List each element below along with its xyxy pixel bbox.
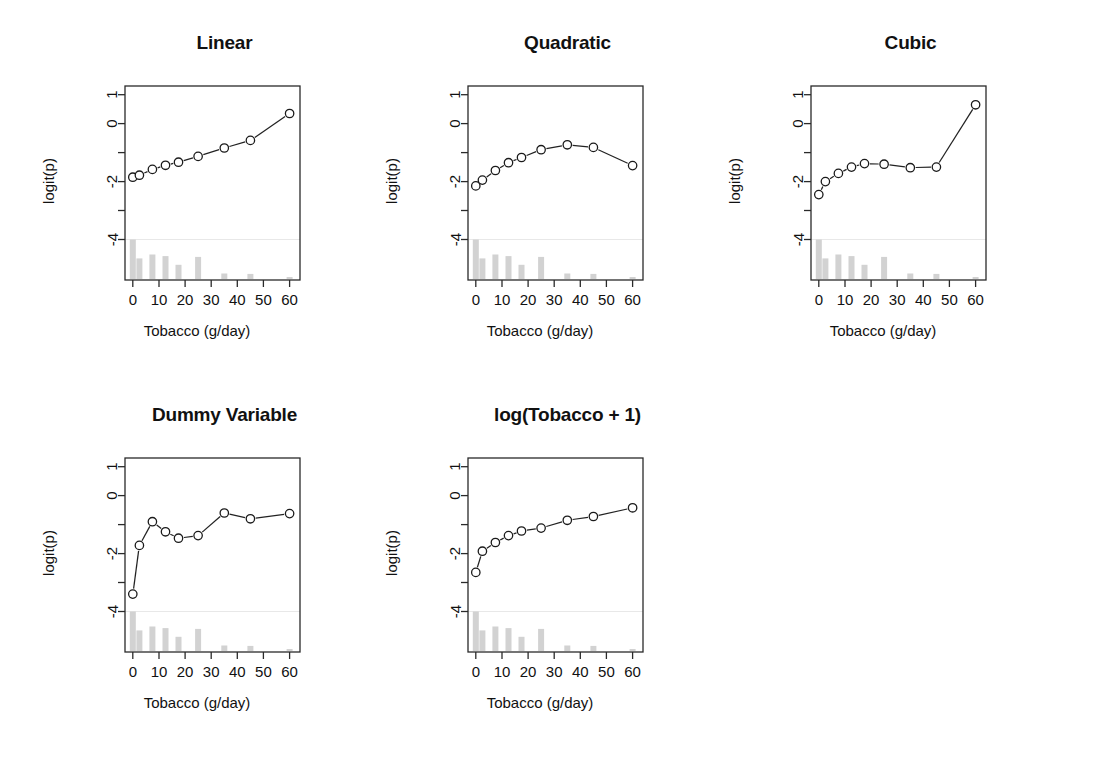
rug-bar bbox=[287, 277, 293, 279]
y-tick-label: -4 bbox=[790, 233, 807, 246]
data-point bbox=[821, 177, 829, 185]
data-point bbox=[971, 101, 979, 109]
rug-bar bbox=[590, 646, 596, 651]
data-point bbox=[628, 504, 636, 512]
data-point bbox=[174, 158, 182, 166]
rug-bar bbox=[479, 630, 485, 651]
x-tick-label: 20 bbox=[520, 663, 537, 680]
x-tick-label: 60 bbox=[624, 663, 641, 680]
axes-frame bbox=[811, 86, 986, 280]
rug-bar bbox=[130, 240, 136, 280]
rug-bar bbox=[538, 257, 544, 279]
x-tick-label: 50 bbox=[598, 663, 615, 680]
panel-title: Quadratic bbox=[385, 32, 750, 54]
panel-title: log(Tobacco + 1) bbox=[385, 404, 750, 426]
x-tick-label: 40 bbox=[572, 663, 589, 680]
data-point bbox=[847, 163, 855, 171]
rug-bar bbox=[564, 274, 570, 280]
rug-bar bbox=[822, 258, 828, 279]
axes-frame bbox=[125, 458, 300, 652]
x-tick-label: 50 bbox=[255, 663, 272, 680]
rug-bar bbox=[933, 274, 939, 279]
data-point bbox=[537, 524, 545, 532]
data-point bbox=[906, 164, 914, 172]
x-tick-label: 20 bbox=[520, 291, 537, 308]
series-markers bbox=[472, 504, 637, 577]
y-axis-label: logit(p) bbox=[40, 82, 56, 280]
y-tick-label: 0 bbox=[104, 491, 121, 499]
x-tick-label: 20 bbox=[863, 291, 880, 308]
data-point bbox=[135, 541, 143, 549]
y-tick-label: 0 bbox=[447, 491, 464, 499]
y-tick-label: -2 bbox=[104, 175, 121, 188]
data-point bbox=[860, 159, 868, 167]
y-tick-label: 1 bbox=[447, 91, 464, 99]
x-tick-label: 20 bbox=[177, 663, 194, 680]
data-point bbox=[932, 163, 940, 171]
x-tick-label: 0 bbox=[472, 291, 480, 308]
rug-bar bbox=[473, 612, 479, 652]
data-point bbox=[537, 146, 545, 154]
series-line bbox=[821, 109, 972, 189]
x-tick-label: 20 bbox=[177, 291, 194, 308]
figure-canvas: Linearlogit(p)Tobacco (g/day)10-2-401020… bbox=[0, 0, 1095, 778]
x-tick-label: 10 bbox=[837, 291, 854, 308]
x-tick-label: 50 bbox=[941, 291, 958, 308]
data-point bbox=[174, 534, 182, 542]
rug-bar bbox=[163, 628, 169, 651]
rug-bar bbox=[163, 256, 169, 279]
data-point bbox=[129, 590, 137, 598]
x-axis: 0102030405060 bbox=[129, 652, 298, 680]
rug-bar bbox=[176, 265, 182, 279]
y-tick-label: 1 bbox=[447, 463, 464, 471]
data-point bbox=[246, 515, 254, 523]
x-tick-label: 30 bbox=[546, 291, 563, 308]
rug-bar bbox=[221, 274, 227, 280]
rug-bar bbox=[176, 637, 182, 651]
x-axis: 0102030405060 bbox=[129, 280, 298, 308]
rug-histogram bbox=[811, 240, 986, 280]
series-markers bbox=[129, 509, 294, 599]
data-point bbox=[285, 109, 293, 117]
data-point bbox=[589, 143, 597, 151]
x-axis: 0102030405060 bbox=[472, 280, 641, 308]
plot-area: 10-2-40102030405060 bbox=[430, 82, 645, 280]
y-axis-label: logit(p) bbox=[383, 82, 399, 280]
x-tick-label: 0 bbox=[815, 291, 823, 308]
data-point bbox=[285, 509, 293, 517]
y-axis: 10-2-4 bbox=[447, 91, 469, 247]
series-markers bbox=[472, 141, 637, 191]
rug-bar bbox=[564, 646, 570, 652]
rug-bar bbox=[247, 646, 253, 651]
data-point bbox=[478, 547, 486, 555]
x-tick-label: 30 bbox=[203, 663, 220, 680]
y-tick-label: -4 bbox=[104, 233, 121, 246]
rug-bar bbox=[506, 256, 512, 279]
panel-title: Dummy Variable bbox=[42, 404, 407, 426]
x-tick-label: 60 bbox=[281, 663, 298, 680]
data-point bbox=[563, 141, 571, 149]
x-tick-label: 0 bbox=[472, 663, 480, 680]
data-point bbox=[880, 160, 888, 168]
rug-bar bbox=[195, 257, 201, 279]
rug-bar bbox=[816, 240, 822, 280]
plot-area: 10-2-40102030405060 bbox=[87, 454, 302, 652]
y-tick-label: -2 bbox=[104, 547, 121, 560]
data-point bbox=[834, 169, 842, 177]
x-tick-label: 10 bbox=[151, 663, 168, 680]
x-tick-label: 30 bbox=[889, 291, 906, 308]
data-point bbox=[135, 171, 143, 179]
data-point bbox=[628, 161, 636, 169]
x-tick-label: 50 bbox=[255, 291, 272, 308]
rug-bar bbox=[130, 612, 136, 652]
x-axis: 0102030405060 bbox=[815, 280, 984, 308]
y-tick-label: -4 bbox=[104, 605, 121, 618]
rug-bar bbox=[195, 629, 201, 651]
y-tick-label: -4 bbox=[447, 605, 464, 618]
x-tick-label: 60 bbox=[967, 291, 984, 308]
x-tick-label: 40 bbox=[229, 291, 246, 308]
y-axis: 10-2-4 bbox=[447, 463, 469, 619]
data-point bbox=[815, 190, 823, 198]
x-tick-label: 40 bbox=[915, 291, 932, 308]
y-tick-label: 0 bbox=[447, 119, 464, 127]
